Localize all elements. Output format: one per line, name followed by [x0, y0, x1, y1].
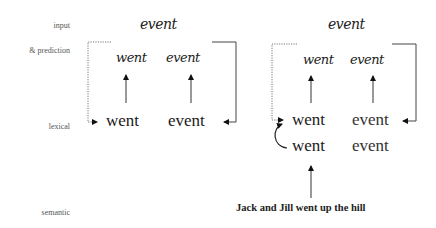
semantic-context-sentence: Jack and Jill went up the hill [236, 202, 366, 213]
left-input-word: event [140, 16, 177, 32]
right-lexical-bottom-event: event [352, 136, 389, 156]
right-predicted-word-event: event [350, 52, 384, 67]
left-lexical-word-went: went [106, 111, 139, 131]
left-feedback-bracket-dotted [88, 42, 111, 122]
right-lexical-bottom-went: went [292, 136, 325, 156]
right-lexical-top-went: went [292, 110, 325, 130]
right-input-word: event [328, 16, 365, 32]
left-feedback-bracket-solid [212, 42, 236, 122]
left-lexical-word-event: event [168, 111, 205, 131]
left-predicted-word-went: went [116, 50, 146, 65]
right-lexical-top-event: event [352, 110, 389, 130]
left-predicted-word-event: event [166, 50, 200, 65]
right-feedback-bracket-solid [392, 44, 416, 121]
right-curved-arrow [275, 124, 287, 148]
right-feedback-bracket-dotted [272, 44, 297, 120]
right-predicted-word-went: went [303, 52, 333, 67]
